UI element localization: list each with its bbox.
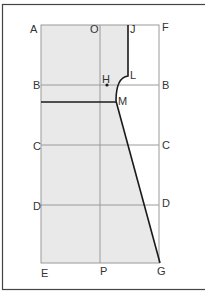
label-b-right: B [162, 80, 169, 91]
label-m: M [118, 96, 127, 107]
label-c-left: C [33, 141, 41, 152]
pattern-diagram [0, 0, 205, 303]
label-b-left: B [33, 80, 40, 91]
label-j: J [130, 24, 136, 35]
label-o: O [90, 24, 99, 35]
label-p: P [100, 266, 107, 277]
label-c-right: C [162, 140, 170, 151]
label-a: A [30, 24, 37, 35]
label-f: F [162, 22, 169, 33]
label-h: H [102, 74, 110, 85]
label-l: L [130, 70, 136, 81]
label-d-right: D [162, 198, 170, 209]
label-e: E [41, 268, 48, 279]
label-d-left: D [33, 201, 41, 212]
label-g: G [157, 266, 166, 277]
